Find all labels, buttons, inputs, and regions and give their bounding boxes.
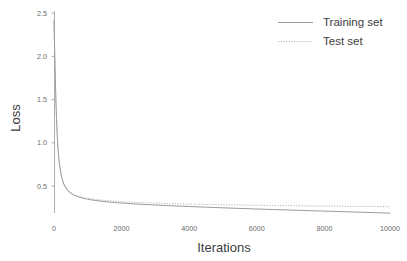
x-tick-label: 10000	[380, 224, 400, 233]
legend-label-test-set: Test set	[323, 35, 363, 47]
y-tick-label: 2.0	[37, 52, 47, 61]
legend-label-training-set: Training set	[323, 16, 383, 28]
x-tick-label: 0	[52, 224, 56, 233]
y-tick-label: 0.5	[37, 182, 47, 191]
x-tick-label: 2000	[114, 224, 130, 233]
x-axis-title: Iterations	[197, 240, 251, 255]
x-tick-label: 8000	[316, 224, 332, 233]
x-tick-label: 6000	[249, 224, 265, 233]
chart-canvas: 2.5 2.0 1.5 1.0 0.5 Loss 0 2000 4000 600…	[0, 0, 407, 261]
y-axis-title: Loss	[8, 104, 23, 132]
x-tick-label: 4000	[181, 224, 197, 233]
loss-curve-figure: 2.5 2.0 1.5 1.0 0.5 Loss 0 2000 4000 600…	[0, 0, 407, 261]
y-tick-label: 1.5	[37, 95, 47, 104]
y-tick-label: 2.5	[37, 9, 47, 18]
y-tick-label: 1.0	[37, 138, 47, 147]
